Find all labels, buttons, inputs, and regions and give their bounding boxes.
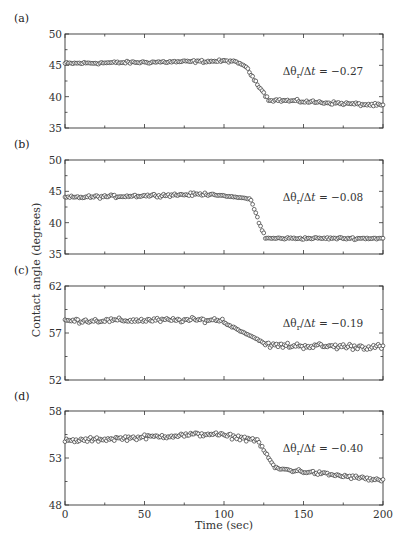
panel-b: (b)35404550Δθr/Δt = −0.08 xyxy=(14,138,385,260)
x-tick-label: 150 xyxy=(293,508,313,520)
y-tick-label: 40 xyxy=(49,217,62,229)
y-tick-label: 45 xyxy=(49,185,62,197)
data-point xyxy=(262,231,266,235)
plot-frame xyxy=(65,34,383,128)
y-tick-label: 35 xyxy=(49,248,62,260)
x-tick-label: 0 xyxy=(62,508,69,520)
panel-label: (c) xyxy=(14,264,29,277)
y-tick-label: 52 xyxy=(49,374,62,386)
slope-annotation: Δθr/Δt = −0.40 xyxy=(283,442,364,457)
y-tick-label: 57 xyxy=(49,327,62,339)
y-axis-title: Contact angle (degrees) xyxy=(30,203,43,338)
x-tick-label: 100 xyxy=(214,508,234,520)
y-tick-label: 50 xyxy=(49,154,62,166)
data-point xyxy=(254,79,258,83)
y-tick-label: 35 xyxy=(49,122,62,134)
panel-label: (d) xyxy=(14,390,30,403)
plot-frame xyxy=(65,286,383,380)
figure: Contact angle (degrees) Time (sec) (a)35… xyxy=(0,0,405,551)
data-point xyxy=(251,74,255,78)
data-point xyxy=(251,202,255,206)
data-point xyxy=(381,478,385,482)
data-point xyxy=(257,440,261,444)
data-point xyxy=(265,95,269,99)
data-point xyxy=(286,341,290,345)
plot-frame xyxy=(65,411,383,505)
panel-a: (a)35404550Δθr/Δt = −0.27 xyxy=(14,12,385,134)
data-point xyxy=(260,444,264,448)
y-tick-label: 45 xyxy=(49,59,62,71)
panel-label: (a) xyxy=(14,12,29,25)
y-tick-label: 40 xyxy=(49,91,62,103)
data-series xyxy=(63,431,385,483)
data-point xyxy=(254,211,258,215)
y-tick-label: 53 xyxy=(49,452,62,464)
panel-label: (b) xyxy=(14,138,30,151)
data-point xyxy=(144,437,148,441)
panel-c: (c)525762Δθr/Δt = −0.19 xyxy=(14,264,385,386)
y-tick-label: 48 xyxy=(49,499,62,511)
y-tick-label: 58 xyxy=(49,405,62,417)
data-point xyxy=(265,452,269,456)
slope-annotation: Δθr/Δt = −0.08 xyxy=(283,191,364,206)
data-point xyxy=(262,91,266,95)
x-tick-label: 200 xyxy=(373,508,393,520)
y-tick-label: 50 xyxy=(49,28,62,40)
panel-d: (d)485358050100150200Δθr/Δt = −0.40 xyxy=(14,390,393,520)
data-point xyxy=(255,215,259,219)
data-point xyxy=(381,103,385,107)
data-point xyxy=(381,344,385,348)
slope-annotation: Δθr/Δt = −0.27 xyxy=(283,65,364,80)
y-tick-label: 62 xyxy=(49,280,62,292)
data-point xyxy=(259,224,263,228)
slope-annotation: Δθr/Δt = −0.19 xyxy=(283,317,364,332)
x-axis-title: Time (sec) xyxy=(195,519,253,532)
x-tick-label: 50 xyxy=(138,508,151,520)
data-point xyxy=(249,198,253,202)
data-point xyxy=(381,236,385,240)
data-point xyxy=(246,67,250,71)
